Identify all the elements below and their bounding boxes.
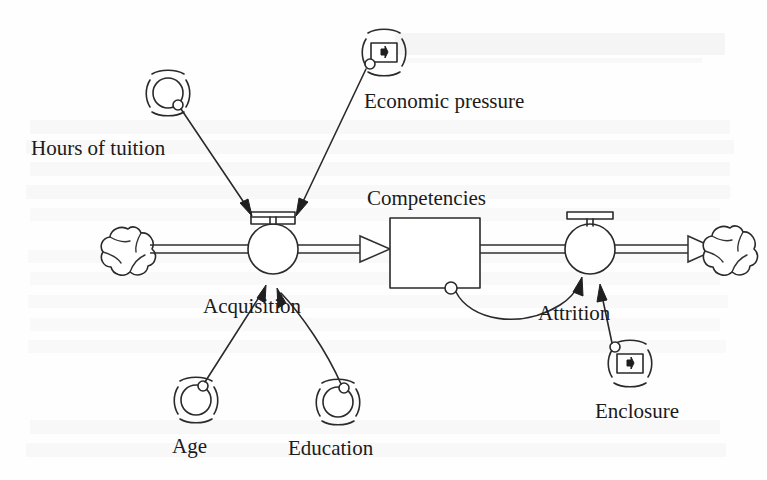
stock-flow-diagram: Competencies — [0, 0, 767, 480]
age-label: Age — [172, 434, 207, 458]
cloud-left — [101, 227, 155, 275]
hours-of-tuition-variable — [146, 70, 190, 116]
cloud-right — [703, 226, 757, 275]
diagram-canvas: Competencies — [0, 0, 767, 480]
acquisition-valve — [248, 212, 298, 274]
enclosure-label: Enclosure — [595, 399, 679, 423]
acquisition-label: Acquisition — [203, 294, 301, 318]
competencies-stock — [390, 218, 480, 288]
attrition-label: Attrition — [538, 301, 611, 325]
age-variable — [174, 377, 218, 423]
education-variable — [316, 379, 360, 425]
competencies-label: Competencies — [367, 186, 486, 210]
education-label: Education — [288, 436, 374, 460]
hours-of-tuition-label: Hours of tuition — [31, 136, 166, 160]
economic-pressure-label: Economic pressure — [364, 89, 524, 113]
attrition-valve — [565, 212, 615, 274]
